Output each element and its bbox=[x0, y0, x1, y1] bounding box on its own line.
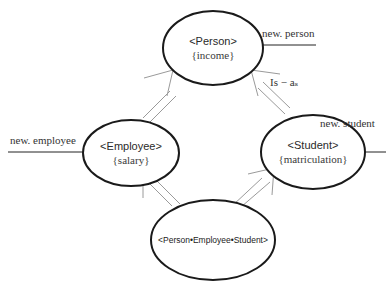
combined-node-text: <Person•Employee•Student> bbox=[158, 233, 268, 247]
isa-relation-label: Is − aₛ bbox=[270, 76, 298, 89]
person-attribute: {income} bbox=[189, 48, 237, 62]
student-attribute: {matriculation} bbox=[278, 152, 347, 166]
isa-arrow-combined-student bbox=[232, 168, 274, 207]
employee-attribute: {salary} bbox=[100, 153, 162, 167]
student-constructor-label: new. student bbox=[320, 117, 375, 129]
person-node-text: <Person> {income} bbox=[189, 34, 237, 62]
person-class-label: <Person> bbox=[189, 34, 237, 48]
employee-constructor-label: new. employee bbox=[10, 134, 76, 146]
person-constructor-label: new. person bbox=[262, 27, 314, 39]
student-node-text: <Student> {matriculation} bbox=[278, 138, 347, 166]
employee-class-label: <Employee> bbox=[100, 139, 162, 153]
employee-node-text: <Employee> {salary} bbox=[100, 139, 162, 167]
combined-class-label: <Person•Employee•Student> bbox=[158, 233, 268, 247]
student-class-label: <Student> bbox=[278, 138, 347, 152]
isa-arrow-employee-person bbox=[143, 70, 176, 122]
